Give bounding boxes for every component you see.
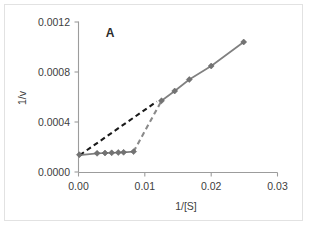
y-tick-label-0: 0.0000 — [38, 166, 70, 178]
data-point-marker — [109, 150, 115, 156]
lineweaver-burk-plot: 0.0012 0.0008 0.0004 0.0000 0.00 0.01 0.… — [0, 0, 309, 227]
chart-screenshot: 0.0012 0.0008 0.0004 0.0000 0.00 0.01 0.… — [0, 0, 309, 227]
y-tick-label-1: 0.0004 — [38, 116, 70, 128]
x-tick-label-2: 0.02 — [201, 180, 222, 192]
data-point-marker — [76, 152, 82, 158]
data-point-marker — [102, 150, 108, 156]
data-point-marker — [94, 150, 100, 156]
panel-letter-label: A — [106, 26, 115, 40]
data-point-marker — [115, 150, 121, 156]
y-tick-label-2: 0.0008 — [38, 66, 70, 78]
data-point-marker — [121, 149, 127, 155]
x-axis-title: 1/[S] — [175, 200, 197, 212]
x-tick-label-1: 0.01 — [135, 180, 156, 192]
y-tick-label-3: 0.0012 — [38, 16, 70, 28]
x-tick-label-3: 0.03 — [267, 180, 288, 192]
series-transition-connector-line — [134, 101, 162, 152]
x-tick-label-0: 0.00 — [68, 180, 89, 192]
y-axis-title: 1/v — [16, 90, 28, 105]
